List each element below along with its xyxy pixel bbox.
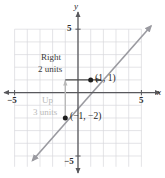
x-axis-label: x [157, 88, 161, 97]
x-tick-pos5: 5 [139, 96, 144, 105]
point-label-1-1: (1, 1) [95, 74, 116, 84]
coordinate-plane-svg [0, 0, 165, 178]
right-annotation-line2: 2 units [38, 65, 62, 74]
plotted-point-neg1-neg2 [63, 116, 68, 121]
graph-figure: y x −5 5 5 −5 Right 2 units Up 3 units (… [0, 0, 165, 178]
point-label-neg1-neg2: (−1, −2) [70, 112, 101, 122]
y-tick-pos5: 5 [67, 24, 72, 33]
right-annotation-line1: Right [41, 53, 61, 62]
x-tick-neg5: −5 [7, 96, 17, 105]
y-axis-label: y [74, 2, 78, 11]
y-tick-neg5: −5 [64, 157, 74, 166]
plotted-point-1-1 [88, 77, 93, 82]
up-annotation-line1: Up [42, 96, 53, 105]
up-annotation-line2: 3 units [33, 108, 57, 117]
